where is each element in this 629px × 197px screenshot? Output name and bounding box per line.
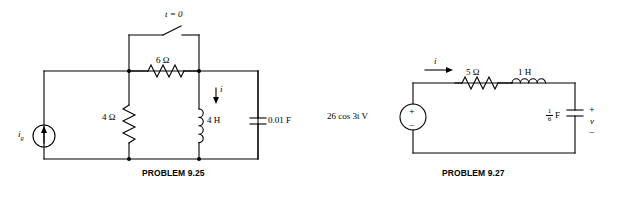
label-voltage-source-value: 26 cos 3t V bbox=[327, 112, 368, 121]
circuit-9-25-graphics bbox=[33, 26, 266, 161]
node-dot-b bbox=[197, 69, 201, 73]
switch-blade bbox=[163, 26, 181, 35]
node-dot-c bbox=[127, 157, 131, 161]
resistor-4ohm-zigzag bbox=[123, 105, 135, 143]
source-polarity-plus: + bbox=[409, 107, 415, 117]
voltage-polarity-plus: + bbox=[589, 105, 595, 115]
capacitor-unit: F bbox=[555, 111, 560, 120]
source-polarity-minus: − bbox=[409, 121, 415, 131]
resistor-5ohm-zigzag bbox=[462, 77, 498, 89]
label-resistor-6ohm: 6 Ω bbox=[156, 56, 169, 65]
branch-current-arrowhead bbox=[213, 97, 219, 104]
capacitor-denominator: 6 bbox=[548, 116, 552, 123]
label-current-source-ig: ig bbox=[18, 130, 24, 141]
inductor-4h-coil bbox=[199, 109, 203, 143]
circuit-schematic-drawing bbox=[0, 0, 629, 197]
label-capacitor-0-01f: 0.01 F bbox=[268, 116, 291, 125]
label-resistor-5ohm: 5 Ω bbox=[466, 68, 479, 77]
current-source-arrowhead bbox=[41, 126, 47, 133]
resistor-6ohm-zigzag bbox=[148, 65, 184, 77]
mesh-current-arrowhead bbox=[446, 67, 453, 73]
label-capacitor-one-sixth-farad: 1 6 F bbox=[546, 108, 560, 124]
label-inductor-4h: 4 H bbox=[207, 116, 220, 125]
caption-problem-9-27: PROBLEM 9.27 bbox=[442, 168, 505, 178]
label-voltage-v: v bbox=[590, 117, 594, 126]
voltage-polarity-minus: − bbox=[589, 128, 595, 138]
inductor-1h-coil bbox=[512, 79, 546, 83]
label-branch-current-i: i bbox=[220, 85, 223, 94]
node-dot-d bbox=[197, 157, 201, 161]
circuit-diagram-canvas: t = 0 6 Ω 4 Ω 4 H 0.01 F ig i PROBLEM 9.… bbox=[0, 0, 629, 197]
capacitor-numerator: 1 bbox=[548, 108, 552, 115]
label-inductor-1h: 1 H bbox=[518, 68, 531, 77]
label-switch-time: t = 0 bbox=[165, 10, 183, 19]
caption-problem-9-25: PROBLEM 9.25 bbox=[142, 168, 205, 178]
node-dot-a bbox=[127, 69, 131, 73]
label-mesh-current-i: i bbox=[434, 57, 437, 66]
label-resistor-4ohm: 4 Ω bbox=[102, 113, 115, 122]
